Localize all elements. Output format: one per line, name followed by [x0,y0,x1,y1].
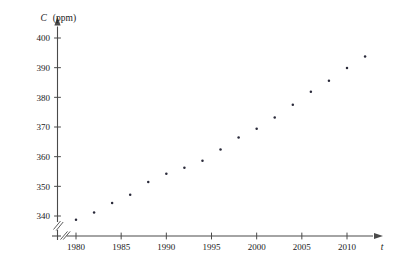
x-tick-label: 1980 [67,242,86,252]
x-tick-label: 1985 [112,242,131,252]
y-tick-label: 340 [37,211,51,221]
y-tick-label: 390 [37,63,51,73]
x-axis-arrowhead [374,233,383,239]
y-axis-title: C(ppm) [41,13,77,24]
data-point [292,104,295,107]
y-tick-label: 400 [37,33,51,43]
x-axis-title: t [381,242,384,252]
axes [52,17,383,241]
x-tick-label: 2005 [293,242,312,252]
data-point [93,211,96,214]
data-point [273,116,276,119]
data-points [75,55,367,221]
data-point [147,181,150,184]
data-point [328,79,331,82]
data-point [111,202,114,205]
data-point [201,160,204,163]
data-point [183,166,186,169]
data-point [255,128,258,131]
data-point [129,193,132,196]
tick-marks [54,38,347,239]
y-axis-break-icon [54,221,64,231]
x-tick-label: 1995 [203,242,222,252]
data-point [346,67,349,70]
axis-titles: C(ppm)t [41,13,384,252]
x-tick-label: 2000 [248,242,267,252]
tick-labels: 3403503603703803904001980198519901995200… [37,33,357,251]
y-tick-label: 350 [37,182,51,192]
data-point [219,148,222,151]
x-tick-label: 2010 [338,242,357,252]
co2-scatter-figure: 3403503603703803904001980198519901995200… [0,0,403,267]
data-point [165,173,168,176]
x-tick-label: 1990 [157,242,176,252]
data-point [310,90,313,93]
y-tick-label: 360 [37,152,51,162]
y-tick-label: 380 [37,93,51,103]
data-point [237,136,240,139]
y-tick-label: 370 [37,122,51,132]
data-point [364,55,367,58]
scatter-plot-svg: 3403503603703803904001980198519901995200… [0,0,403,267]
data-point [75,219,78,222]
